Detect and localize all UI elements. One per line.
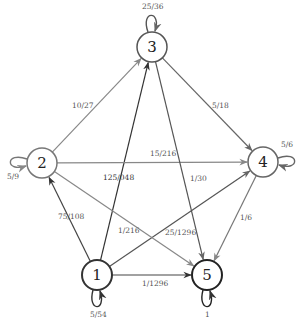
edge-2-to-4 <box>57 162 247 163</box>
self-loop-label-2: 5/9 <box>7 172 19 181</box>
edge-label-2-4: 15/216 <box>150 149 177 158</box>
self-loop-label-1: 5/54 <box>90 310 107 319</box>
node-label: 5 <box>202 266 212 284</box>
self-loop-label-3: 25/36 <box>142 2 164 11</box>
state-graph: 12345 75/108125/04825/12961/129610/2715/… <box>0 0 301 322</box>
edge-label-3-4: 5/18 <box>212 101 229 110</box>
edge-label-3-5: 1/30 <box>190 174 207 183</box>
node-label: 2 <box>37 154 47 172</box>
edges <box>49 58 256 275</box>
node-1: 1 <box>82 260 112 290</box>
node-4: 4 <box>248 147 278 177</box>
node-2: 2 <box>27 148 57 178</box>
node-5: 5 <box>192 260 222 290</box>
edge-label-1-2: 75/108 <box>58 212 85 221</box>
node-3: 3 <box>137 32 167 62</box>
edge-label-2-5: 1/216 <box>118 226 140 235</box>
edge-label-2-3: 10/27 <box>72 101 94 110</box>
edge-2-to-3 <box>52 59 141 153</box>
node-label: 4 <box>258 153 268 171</box>
edge-label-1-5: 1/1296 <box>142 279 169 288</box>
self-loop-4 <box>278 156 295 166</box>
self-loop-1 <box>92 290 102 307</box>
edge-3-to-4 <box>162 58 252 151</box>
edge-1-to-4 <box>109 171 249 267</box>
self-loop-3 <box>146 15 156 32</box>
edge-label-4-5: 1/6 <box>240 213 252 222</box>
nodes: 12345 <box>27 32 278 290</box>
self-loop-5 <box>202 290 212 307</box>
edge-label-1-3: 125/048 <box>103 173 134 182</box>
self-loop-label-5: 1 <box>205 310 210 319</box>
node-label: 1 <box>92 266 102 284</box>
edge-label-1-4: 25/1296 <box>165 228 196 237</box>
self-loop-label-4: 5/6 <box>281 140 293 149</box>
self-loop-2 <box>10 157 27 167</box>
node-label: 3 <box>147 38 157 56</box>
